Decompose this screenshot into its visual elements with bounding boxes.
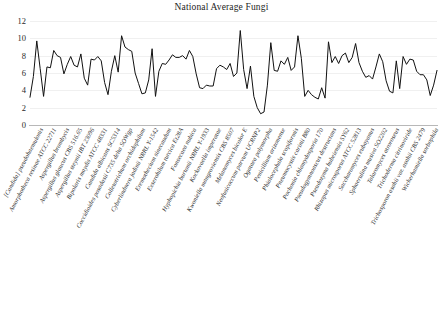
y-axis-tick-label: 0	[22, 121, 26, 130]
plot-area: 024681012	[30, 21, 437, 125]
chart-container: National Average Fungi 024681012 [Candid…	[0, 0, 443, 313]
x-axis-labels: [Candida] pseudohaemulonisAmorphotheca r…	[30, 127, 437, 307]
y-axis-tick-label: 12	[18, 17, 27, 26]
y-axis-tick-label: 6	[22, 69, 26, 78]
y-axis-tick-label: 8	[22, 51, 26, 60]
series-polyline	[30, 31, 437, 114]
x-axis-line	[29, 125, 438, 127]
y-axis-tick-label: 4	[22, 86, 26, 95]
y-axis-tick-label: 10	[18, 34, 27, 43]
series-line	[30, 21, 437, 125]
chart-title: National Average Fungi	[0, 2, 443, 12]
y-axis-tick-label: 2	[22, 103, 26, 112]
